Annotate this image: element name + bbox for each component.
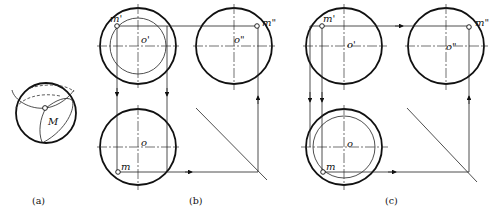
label-o-double-prime-b: o" xyxy=(234,34,245,45)
label-m-prime-b: m' xyxy=(110,13,122,24)
label-m-c: m xyxy=(326,161,335,172)
panel-a-sphere xyxy=(12,83,76,143)
label-o-double-prime-c: o" xyxy=(446,41,457,52)
caption-c: (c) xyxy=(385,195,398,206)
sphere-projection-diagram: M (a) m' o' m" o" o m (b) xyxy=(0,0,497,218)
label-o-b: o xyxy=(141,137,147,148)
label-o-c: o xyxy=(347,138,353,149)
label-o-prime-b: o' xyxy=(141,34,150,45)
label-o-prime-c: o' xyxy=(347,39,356,50)
label-M: M xyxy=(47,116,59,127)
label-m-prime-c: m' xyxy=(323,13,335,24)
label-m-double-prime-c: m" xyxy=(475,17,489,28)
label-m-double-prime-b: m" xyxy=(262,17,276,28)
label-m-b: m xyxy=(121,161,130,172)
caption-a: (a) xyxy=(32,195,45,206)
point-M xyxy=(43,106,48,111)
caption-b: (b) xyxy=(189,195,203,206)
